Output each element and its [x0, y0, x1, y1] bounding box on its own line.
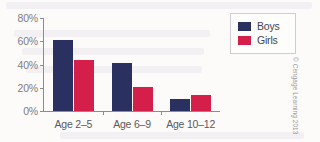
- chart-legend: Boys Girls: [230, 13, 296, 54]
- y-axis-tick-mark: [40, 41, 44, 42]
- x-axis-category-label: Age 10–12: [166, 118, 215, 130]
- x-axis-tick-mark: [103, 111, 104, 115]
- y-axis-tick-label: 40%: [18, 59, 38, 71]
- bar-girls-0: [74, 60, 94, 111]
- bar-chart: 0%20%40%60%80%Age 2–5Age 6–9Age 10–12 Bo…: [0, 0, 320, 142]
- copyright-credit: © Cengage Learning 2013: [292, 57, 299, 134]
- y-axis-tick-label: 0%: [23, 105, 38, 117]
- bar-boys-1: [112, 63, 132, 111]
- legend-label-boys: Boys: [257, 20, 280, 32]
- bar-girls-2: [191, 95, 211, 111]
- x-axis-category-label: Age 2–5: [54, 118, 92, 130]
- legend-item-girls: Girls: [238, 33, 289, 47]
- page-background: 0%20%40%60%80%Age 2–5Age 6–9Age 10–12 Bo…: [0, 0, 320, 142]
- bar-boys-0: [53, 40, 73, 111]
- legend-item-boys: Boys: [238, 19, 289, 33]
- y-axis-tick-mark: [40, 88, 44, 89]
- bar-girls-1: [133, 87, 153, 111]
- y-axis-tick-mark: [40, 65, 44, 66]
- y-axis-tick-label: 60%: [18, 35, 38, 47]
- bar-boys-2: [170, 99, 190, 111]
- legend-swatch-icon-girls: [238, 36, 251, 45]
- y-axis-tick-mark: [40, 18, 44, 19]
- x-axis-tick-mark: [161, 111, 162, 115]
- plot-area: 0%20%40%60%80%Age 2–5Age 6–9Age 10–12: [43, 18, 220, 112]
- legend-label-girls: Girls: [257, 34, 278, 46]
- y-axis-tick-mark: [40, 111, 44, 112]
- x-axis-category-label: Age 6–9: [113, 118, 151, 130]
- legend-swatch-icon-boys: [238, 22, 251, 31]
- y-axis-tick-label: 20%: [18, 82, 38, 94]
- y-axis-tick-label: 80%: [18, 12, 38, 24]
